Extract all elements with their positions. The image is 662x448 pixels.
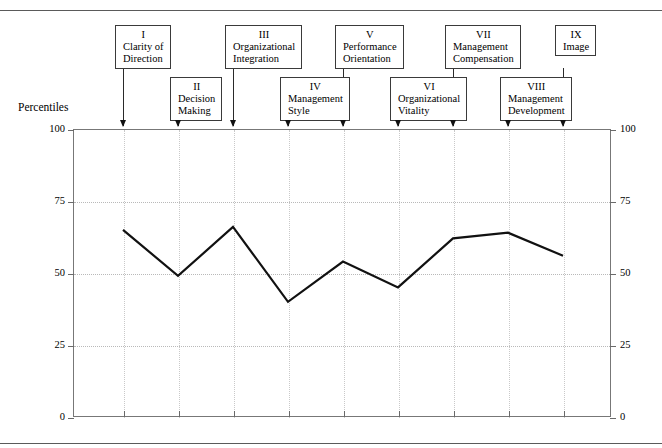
y-axis-title: Percentiles (18, 101, 68, 113)
callout-roman: IX (563, 29, 589, 41)
callout-label: Clarity of (123, 41, 164, 53)
callout-label: Orientation (343, 53, 397, 65)
callout-label: Compensation (453, 53, 514, 65)
callout-roman: V (343, 29, 397, 41)
callout-box-v: VPerformanceOrientation (335, 25, 404, 69)
callout-label: Organizational (398, 93, 460, 105)
category-gridline (399, 130, 400, 418)
x-tick (234, 411, 235, 417)
y-gridline (74, 202, 612, 203)
callout-label: Decision (178, 93, 215, 105)
callout-label: Management (288, 93, 343, 105)
callout-box-viii: VIIIManagementDevelopment (500, 77, 572, 121)
y-axis-label-right: 100 (620, 123, 650, 134)
callout-arrow-icon (285, 120, 291, 127)
callout-arrow-icon (450, 120, 456, 127)
callout-label: Integration (233, 53, 295, 65)
x-tick (289, 411, 290, 417)
category-gridline (509, 130, 510, 418)
callout-box-iii: IIIOrganizationalIntegration (225, 25, 302, 69)
y-tick-right (610, 346, 616, 347)
y-axis-label-left: 100 (39, 123, 65, 134)
category-gridline (234, 130, 235, 418)
plot-area (73, 129, 611, 417)
callout-label: Management (453, 41, 514, 53)
callout-arrow-icon (505, 120, 511, 127)
x-tick (509, 411, 510, 417)
callout-label: Style (288, 105, 343, 117)
y-tick-right (610, 418, 616, 419)
callout-roman: VII (453, 29, 514, 41)
y-axis-label-left: 0 (39, 411, 65, 422)
category-gridline (124, 130, 125, 418)
y-axis-label-right: 25 (620, 339, 650, 350)
category-gridline (289, 130, 290, 418)
y-axis-label-left: 50 (39, 267, 65, 278)
callout-label: Organizational (233, 41, 295, 53)
figure-canvas: Percentiles 00252550507575100100IClarity… (0, 0, 662, 448)
y-axis-label-left: 75 (39, 195, 65, 206)
category-gridline (454, 130, 455, 418)
callout-box-ix: IXImage (555, 25, 596, 56)
y-tick-left (68, 202, 74, 203)
x-tick (179, 411, 180, 417)
callout-box-vii: VIIManagementCompensation (445, 25, 521, 69)
y-tick-left (68, 418, 74, 419)
x-tick (399, 411, 400, 417)
y-tick-right (610, 130, 616, 131)
callout-arrow-icon (175, 120, 181, 127)
callout-label: Performance (343, 41, 397, 53)
callout-leader-line (233, 68, 234, 126)
y-axis-label-left: 25 (39, 339, 65, 350)
x-tick (564, 411, 565, 417)
category-gridline (179, 130, 180, 418)
callout-arrow-icon (395, 120, 401, 127)
callout-roman: I (123, 29, 164, 41)
x-tick (124, 411, 125, 417)
callout-label: Direction (123, 53, 164, 65)
callout-roman: VI (398, 81, 460, 93)
callout-arrow-icon (230, 120, 236, 127)
callout-roman: VIII (508, 81, 565, 93)
callout-label: Making (178, 105, 215, 117)
callout-roman: III (233, 29, 295, 41)
top-rule (0, 10, 662, 11)
callout-arrow-icon (340, 120, 346, 127)
category-gridline (564, 130, 565, 418)
y-gridline (74, 274, 612, 275)
y-tick-right (610, 202, 616, 203)
callout-leader-line (123, 68, 124, 126)
bottom-rule (0, 443, 662, 444)
x-tick (344, 411, 345, 417)
callout-arrow-icon (120, 120, 126, 127)
category-gridline (344, 130, 345, 418)
y-tick-right (610, 274, 616, 275)
callout-label: Vitality (398, 105, 460, 117)
y-axis-label-right: 0 (620, 411, 650, 422)
callout-roman: IV (288, 81, 343, 93)
x-tick (454, 411, 455, 417)
y-tick-left (68, 274, 74, 275)
y-axis-label-right: 50 (620, 267, 650, 278)
callout-box-ii: IIDecisionMaking (170, 77, 222, 121)
y-tick-left (68, 346, 74, 347)
y-gridline (74, 346, 612, 347)
y-tick-left (68, 130, 74, 131)
callout-label: Management (508, 93, 565, 105)
callout-arrow-icon (560, 120, 566, 127)
y-axis-label-right: 75 (620, 195, 650, 206)
callout-box-i: IClarity ofDirection (115, 25, 171, 69)
callout-box-vi: VIOrganizationalVitality (390, 77, 467, 121)
callout-label: Image (563, 41, 589, 53)
callout-roman: II (178, 81, 215, 93)
callout-box-iv: IVManagementStyle (280, 77, 350, 121)
callout-label: Development (508, 105, 565, 117)
